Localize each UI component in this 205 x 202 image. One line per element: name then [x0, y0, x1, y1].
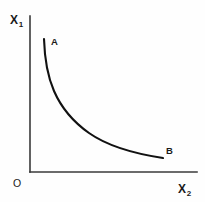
x-axis-label: X2: [178, 183, 191, 195]
x-axis-label-subscript: 2: [187, 189, 192, 198]
isoquant-curve: [44, 39, 163, 158]
y-axis-label: X1: [10, 14, 23, 26]
y-axis-label-subscript: 1: [19, 20, 24, 29]
y-axis-label-base: X: [10, 13, 18, 27]
point-a-label: A: [51, 37, 58, 47]
x-axis-label-base: X: [178, 182, 186, 196]
point-b-label: B: [166, 146, 173, 156]
figure-canvas: [0, 0, 205, 202]
isoquant-figure: X1 X2 O A B: [0, 0, 205, 202]
origin-label: O: [13, 178, 21, 189]
